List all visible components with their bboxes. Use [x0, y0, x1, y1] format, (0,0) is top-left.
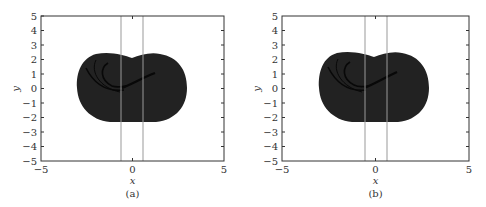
panel-caption: (a) [126, 188, 140, 199]
svg-text:1: 1 [31, 69, 37, 80]
svg-text:−4: −4 [263, 141, 278, 152]
svg-text:4: 4 [272, 25, 278, 36]
svg-text:0: 0 [372, 164, 378, 175]
x-axis-label: x [373, 175, 379, 186]
svg-text:−4: −4 [22, 141, 37, 152]
y-axis-label: y [251, 86, 262, 93]
svg-text:0: 0 [129, 164, 135, 175]
svg-text:−2: −2 [22, 112, 37, 123]
y-tick-labels: 5 4 3 2 1 0 −1 −2 −3 −4 −5 [263, 11, 278, 167]
svg-text:0: 0 [272, 83, 278, 94]
svg-text:−5: −5 [34, 164, 49, 175]
plot-b: 5 4 3 2 1 0 −1 −2 −3 −4 −5 −5 0 5 x y (b… [241, 0, 484, 207]
svg-text:−1: −1 [22, 98, 37, 109]
svg-text:−3: −3 [263, 127, 278, 138]
svg-text:−3: −3 [22, 127, 37, 138]
x-tick-labels: −5 0 5 [275, 164, 473, 175]
svg-text:4: 4 [31, 25, 37, 36]
svg-text:5: 5 [466, 164, 472, 175]
svg-text:3: 3 [272, 40, 278, 51]
filled-region [319, 52, 429, 122]
panel-caption: (b) [368, 188, 382, 199]
svg-text:−2: −2 [263, 112, 278, 123]
svg-text:1: 1 [272, 69, 278, 80]
svg-text:5: 5 [31, 11, 37, 22]
panel-a: 5 4 3 2 1 0 −1 −2 −3 −4 −5 −5 0 5 x y (a… [0, 0, 243, 207]
svg-text:3: 3 [31, 40, 37, 51]
plot-a: 5 4 3 2 1 0 −1 −2 −3 −4 −5 −5 0 5 x y (a… [0, 0, 243, 207]
y-axis-label: y [10, 86, 21, 93]
svg-text:5: 5 [221, 164, 227, 175]
filled-region [77, 53, 187, 122]
svg-text:5: 5 [272, 11, 278, 22]
svg-text:−1: −1 [263, 98, 278, 109]
svg-text:2: 2 [272, 54, 278, 65]
x-axis-label: x [130, 175, 136, 186]
panel-b: 5 4 3 2 1 0 −1 −2 −3 −4 −5 −5 0 5 x y (b… [241, 0, 484, 207]
svg-text:−5: −5 [275, 164, 290, 175]
y-tick-labels: 5 4 3 2 1 0 −1 −2 −3 −4 −5 [22, 11, 37, 167]
svg-text:0: 0 [31, 83, 37, 94]
svg-text:2: 2 [31, 54, 37, 65]
x-tick-labels: −5 0 5 [34, 164, 228, 175]
